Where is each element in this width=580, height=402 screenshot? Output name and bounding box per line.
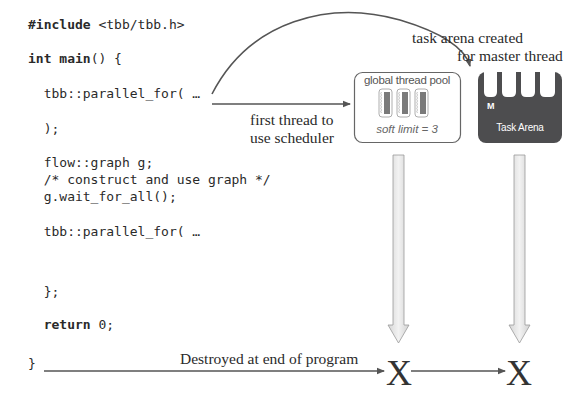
global-pool-soft-limit: soft limit = 3 — [354, 123, 460, 135]
destroy-x-icon-pool: X — [386, 355, 412, 391]
label-task-arena-created: task arena created — [412, 29, 523, 47]
down-arrow-task-arena — [509, 155, 530, 343]
tbb-lifetime-diagram: #include <tbb/tbb.h> int main() { tbb::p… — [0, 0, 580, 402]
label-first-thread: first thread to — [250, 111, 334, 129]
thread-icons — [379, 89, 428, 117]
task-arena-title: Task Arena — [478, 122, 562, 133]
label-destroyed: Destroyed at end of program — [180, 350, 358, 368]
destroy-x-icon-arena: X — [506, 355, 532, 391]
master-thread-label: M — [487, 101, 495, 111]
label-for-master-thread: for master thread — [457, 47, 563, 65]
global-pool-title: global thread pool — [354, 74, 460, 86]
label-use-scheduler: use scheduler — [250, 129, 334, 147]
down-arrow-global-pool — [388, 155, 409, 343]
